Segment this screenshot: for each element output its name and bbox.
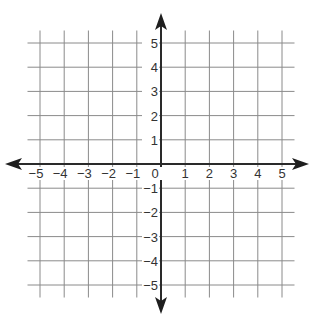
axes xyxy=(5,13,309,314)
y-tick-label: 4 xyxy=(151,60,158,75)
x-tick-label: −5 xyxy=(29,166,44,181)
x-tick-label: 5 xyxy=(278,166,285,181)
y-tick-label: −4 xyxy=(143,254,158,269)
x-tick-label: 3 xyxy=(230,166,237,181)
x-tick-label: 4 xyxy=(254,166,261,181)
y-tick-label: 1 xyxy=(151,133,158,148)
x-tick-label: −1 xyxy=(125,166,140,181)
x-tick-label: −3 xyxy=(77,166,92,181)
x-tick-label: 0 xyxy=(151,166,158,181)
x-tick-labels: −5−4−3−2−1012345 xyxy=(27,166,291,181)
x-tick-label: −4 xyxy=(53,166,68,181)
x-tick-label: 1 xyxy=(182,166,189,181)
y-tick-label: 3 xyxy=(151,84,158,99)
y-tick-label: −2 xyxy=(143,205,158,220)
x-tick-label: −2 xyxy=(101,166,116,181)
y-tick-label: −5 xyxy=(143,278,158,293)
y-tick-label: −3 xyxy=(143,230,158,245)
y-tick-label: −1 xyxy=(143,181,158,196)
y-tick-label: 2 xyxy=(151,109,158,124)
y-tick-label: 5 xyxy=(151,36,158,51)
coordinate-plane: −5−4−3−2−1012345 −5−4−3−2−112345 xyxy=(0,0,311,317)
x-tick-label: 2 xyxy=(206,166,213,181)
